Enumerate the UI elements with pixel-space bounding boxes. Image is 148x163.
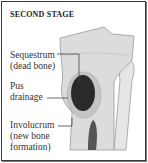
sequestrum-shape (71, 75, 95, 111)
pus-label-line1: Pus (10, 81, 43, 92)
pus-label-line2: drainage (10, 92, 43, 103)
sequestrum-label-line1: Sequestrum (10, 50, 55, 61)
involucrum-label-line1: Involucrum (10, 120, 54, 131)
involucrum-leader (58, 118, 72, 126)
sequestrum-label-line2: (dead bone) (10, 61, 55, 72)
involucrum-label-line3: formation) (10, 142, 54, 153)
involucrum-label-line2: (new bone (10, 131, 54, 142)
involucrum-label: Involucrum (new bone formation) (10, 120, 54, 153)
sequestrum-label: Sequestrum (dead bone) (10, 50, 55, 72)
pus-drainage-label: Pus drainage (10, 81, 43, 103)
